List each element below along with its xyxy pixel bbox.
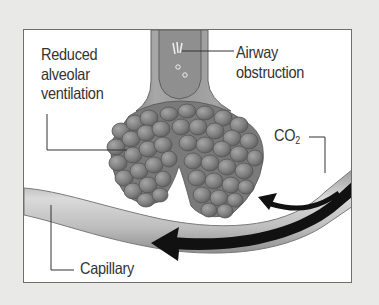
diagram-panel: Reduced alveolar ventilation Airway obst… — [23, 29, 352, 283]
label-capillary: Capillary — [80, 259, 134, 279]
label-co2: CO2 — [274, 126, 300, 151]
airway — [136, 30, 231, 111]
alveoli — [107, 101, 263, 218]
label-airway-obstruction: Airway obstruction — [236, 43, 304, 82]
label-reduced-alveolar-ventilation: Reduced alveolar ventilation — [41, 45, 103, 104]
leader-co2 — [309, 137, 325, 173]
